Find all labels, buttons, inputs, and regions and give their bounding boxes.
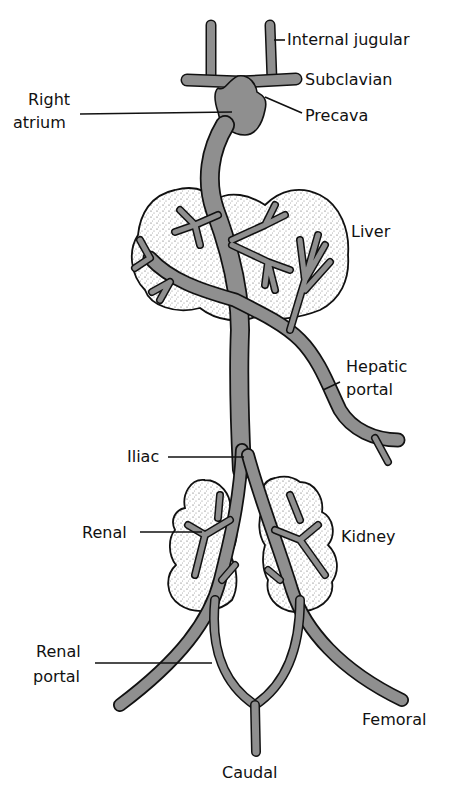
label-liver: Liver [351, 222, 390, 242]
label-renal: Renal [82, 523, 127, 543]
label-precava: Precava [305, 106, 368, 126]
leader-precava [265, 97, 302, 113]
label-renal-portal-line2: portal [33, 667, 80, 687]
label-internal-jugular: Internal jugular [287, 30, 409, 50]
renal-portal-and-caudal-veins [214, 600, 300, 752]
label-hepatic-portal-line1: Hepatic [346, 357, 407, 377]
label-iliac: Iliac [127, 447, 159, 467]
label-renal-portal-line1: Renal [36, 642, 81, 662]
label-subclavian: Subclavian [305, 70, 392, 90]
leader-right-atrium [80, 112, 232, 114]
label-right-atrium-line2: atrium [13, 113, 66, 133]
label-femoral: Femoral [362, 710, 426, 730]
label-right-atrium-line1: Right [28, 90, 70, 110]
label-hepatic-portal-line2: portal [346, 380, 393, 400]
iliac-veins [120, 450, 402, 705]
label-caudal: Caudal [222, 763, 278, 783]
internal-jugular-veins [211, 25, 272, 80]
label-kidney: Kidney [341, 527, 396, 547]
